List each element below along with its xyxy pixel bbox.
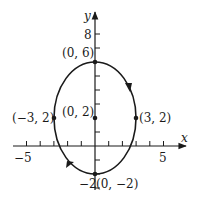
y-tick-8: 8 — [84, 28, 92, 42]
x-tick-neg5: −5 — [14, 151, 32, 165]
label-3-2: (3, 2) — [139, 111, 171, 125]
x-axis-label: x — [181, 131, 188, 145]
label-0-2: (0, 2) — [62, 105, 94, 119]
point-0-neg2 — [93, 172, 98, 177]
point-0-6 — [93, 60, 98, 65]
point-3-2 — [134, 116, 139, 121]
x-tick-5: 5 — [159, 151, 167, 165]
label-0-6: (0, 6) — [62, 46, 94, 60]
y-axis-ticks — [95, 34, 100, 188]
ellipse-diagram: y x 8 −2 −5 5 (0, 6) (0, 2) (−3, 2) (3, … — [0, 0, 201, 202]
y-axis-label: y — [83, 9, 91, 23]
y-tick-neg2: −2 — [79, 177, 97, 191]
label-neg3-2: (−3, 2) — [12, 111, 54, 125]
label-0-neg2: (0, −2) — [96, 177, 138, 191]
